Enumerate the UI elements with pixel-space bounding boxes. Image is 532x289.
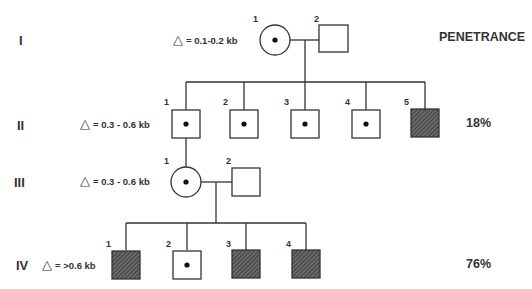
individual-number: 5 <box>404 97 409 107</box>
penetrance-value-II: 18% <box>466 116 491 130</box>
delta-annotation-I: △= 0.1-0.2 kb <box>173 32 238 47</box>
penetrance-value-IV: 76% <box>466 257 491 271</box>
generation-label-IV: IV <box>16 258 28 273</box>
generation-label-II: II <box>17 118 24 133</box>
individual-II-5-affected <box>411 109 439 137</box>
delta-icon: △ <box>173 32 183 47</box>
individual-number: 2 <box>223 97 228 107</box>
individual-III-2 <box>232 168 260 196</box>
delta-annotation-II: △= 0.3 - 0.6 kb <box>80 116 150 131</box>
penetrance-header: PENETRANCE <box>439 30 525 44</box>
carrier-dot-icon <box>272 37 277 42</box>
individual-IV-1-affected <box>112 251 140 279</box>
individual-II-1 <box>172 110 200 138</box>
individual-II-3 <box>291 110 319 138</box>
individual-number: 2 <box>314 14 319 24</box>
individual-number: 3 <box>284 97 289 107</box>
delta-annotation-IV: △= >0.6 kb <box>42 257 96 272</box>
generation-label-III: III <box>14 175 25 190</box>
individual-I-2 <box>319 25 348 52</box>
individual-number: 2 <box>166 239 171 249</box>
individual-number: 2 <box>226 156 231 166</box>
individual-III-1 <box>171 167 201 197</box>
delta-icon: △ <box>42 257 52 272</box>
delta-icon: △ <box>80 116 90 131</box>
individual-number: 1 <box>164 156 169 166</box>
individual-II-2 <box>230 110 258 138</box>
individual-number: 1 <box>106 239 111 249</box>
individual-number: 1 <box>164 97 169 107</box>
delta-icon: △ <box>80 173 90 188</box>
individual-number: 3 <box>226 239 231 249</box>
generation-label-I: I <box>19 33 23 48</box>
individual-number: 4 <box>345 97 350 107</box>
individual-number: 4 <box>286 239 291 249</box>
individual-I-1 <box>260 25 290 55</box>
individual-number: 1 <box>253 14 258 24</box>
individual-IV-2 <box>173 251 201 279</box>
delta-annotation-III: △= 0.3 - 0.6 kb <box>80 173 150 188</box>
individual-IV-4-affected <box>292 250 320 278</box>
individual-IV-3-affected <box>232 250 260 278</box>
individual-II-4 <box>352 110 380 138</box>
